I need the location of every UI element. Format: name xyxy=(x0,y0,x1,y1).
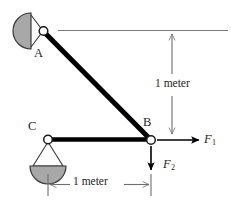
label-horizontal-dimension: 1 meter xyxy=(73,176,108,188)
support-c-bracket xyxy=(33,142,63,166)
label-force-f2-symbol: F xyxy=(163,157,171,171)
diagram-canvas xyxy=(0,0,231,201)
label-force-f2-subscript: 2 xyxy=(171,163,175,172)
joint-c xyxy=(44,135,53,144)
support-a-base xyxy=(13,13,31,49)
member-ab xyxy=(45,33,150,139)
label-node-c: C xyxy=(28,120,36,133)
label-force-f1-subscript: 1 xyxy=(212,138,216,147)
label-node-a: A xyxy=(34,47,43,60)
label-vertical-dimension: 1 meter xyxy=(155,78,190,90)
joint-a xyxy=(39,27,48,36)
label-force-f2: F2 xyxy=(163,158,175,172)
joint-b xyxy=(147,136,156,145)
statics-diagram-figure: A B C 1 meter 1 meter F1 F2 xyxy=(0,0,231,201)
label-force-f1: F1 xyxy=(204,133,216,147)
label-force-f1-symbol: F xyxy=(204,132,212,146)
label-node-b: B xyxy=(143,116,151,129)
